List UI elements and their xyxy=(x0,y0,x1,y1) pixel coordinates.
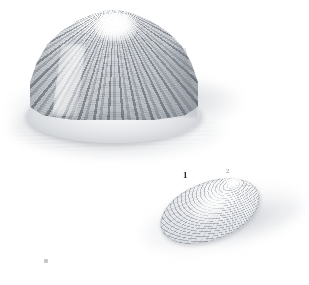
figure-label-2: 2 xyxy=(226,168,230,175)
figure-2-small-oval-shell xyxy=(140,168,309,268)
large-shell-apex-highlight xyxy=(94,12,138,42)
figure-1-large-conical-limpet xyxy=(8,4,238,169)
figure-label-1: 1 xyxy=(183,171,188,180)
ink-speck-artifact xyxy=(44,259,48,263)
illustration-plate: 1 2 xyxy=(0,0,309,285)
